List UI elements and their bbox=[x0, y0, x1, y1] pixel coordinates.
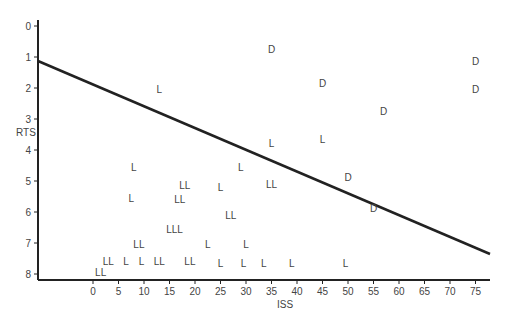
axes: 012345678051015202530354045505560657075 bbox=[25, 20, 490, 297]
y-axis-title: RTS bbox=[16, 127, 36, 138]
marker-L: L bbox=[238, 162, 244, 173]
marker-L: L bbox=[218, 258, 224, 269]
y-tick-label: 2 bbox=[25, 83, 31, 94]
marker-L: LL bbox=[103, 256, 115, 267]
marker-L: L bbox=[343, 258, 349, 269]
marker-L: LL bbox=[266, 179, 278, 190]
marker-L: LL bbox=[95, 267, 107, 278]
x-tick-label: 0 bbox=[90, 286, 96, 297]
x-tick-label: 5 bbox=[116, 286, 122, 297]
x-tick-label: 70 bbox=[444, 286, 456, 297]
marker-L: L bbox=[157, 84, 163, 95]
marker-L: LL bbox=[174, 194, 186, 205]
y-tick-label: 3 bbox=[25, 114, 31, 125]
marker-L: LL bbox=[179, 180, 191, 191]
marker-L: L bbox=[123, 256, 129, 267]
data-markers: DDDDDDDLLLLLLLLLLLLLLLLLLLLLLLLLLLLLLLLL… bbox=[95, 44, 479, 278]
marker-L: LL bbox=[154, 256, 166, 267]
x-tick-label: 25 bbox=[215, 286, 227, 297]
regression-line bbox=[38, 61, 490, 254]
marker-L: LL bbox=[133, 239, 145, 250]
marker-D: D bbox=[472, 84, 479, 95]
marker-D: D bbox=[370, 203, 377, 214]
x-axis-title: ISS bbox=[277, 299, 293, 310]
marker-L: L bbox=[241, 258, 247, 269]
x-tick-label: 55 bbox=[368, 286, 380, 297]
discriminant-line bbox=[38, 61, 490, 254]
marker-L: L bbox=[218, 182, 224, 193]
x-tick-label: 60 bbox=[393, 286, 405, 297]
y-tick-label: 0 bbox=[25, 21, 31, 32]
x-tick-label: 30 bbox=[240, 286, 252, 297]
marker-D: D bbox=[268, 44, 275, 55]
x-tick-label: 50 bbox=[342, 286, 354, 297]
scatter-chart: 012345678051015202530354045505560657075 … bbox=[0, 0, 509, 329]
x-tick-label: 65 bbox=[419, 286, 431, 297]
marker-L: L bbox=[269, 138, 275, 149]
x-tick-label: 35 bbox=[266, 286, 278, 297]
y-tick-label: 7 bbox=[25, 238, 31, 249]
y-tick-label: 1 bbox=[25, 52, 31, 63]
y-tick-label: 8 bbox=[25, 269, 31, 280]
marker-L: L bbox=[289, 258, 295, 269]
marker-L: L bbox=[205, 239, 211, 250]
x-tick-label: 75 bbox=[470, 286, 482, 297]
y-tick-label: 6 bbox=[25, 207, 31, 218]
y-tick-label: 5 bbox=[25, 176, 31, 187]
marker-L: L bbox=[131, 162, 137, 173]
marker-L: L bbox=[261, 258, 267, 269]
y-tick-label: 4 bbox=[25, 145, 31, 156]
marker-L: L bbox=[139, 256, 145, 267]
x-tick-label: 20 bbox=[189, 286, 201, 297]
marker-L: L bbox=[320, 134, 326, 145]
marker-L: LLL bbox=[166, 224, 183, 235]
marker-L: LL bbox=[184, 256, 196, 267]
marker-L: LL bbox=[225, 210, 237, 221]
marker-D: D bbox=[472, 56, 479, 67]
x-tick-label: 45 bbox=[317, 286, 329, 297]
marker-D: D bbox=[344, 172, 351, 183]
x-tick-label: 40 bbox=[291, 286, 303, 297]
marker-L: L bbox=[243, 239, 249, 250]
x-tick-label: 15 bbox=[164, 286, 176, 297]
marker-D: D bbox=[319, 78, 326, 89]
marker-L: L bbox=[128, 193, 134, 204]
x-tick-label: 10 bbox=[138, 286, 150, 297]
marker-D: D bbox=[380, 106, 387, 117]
